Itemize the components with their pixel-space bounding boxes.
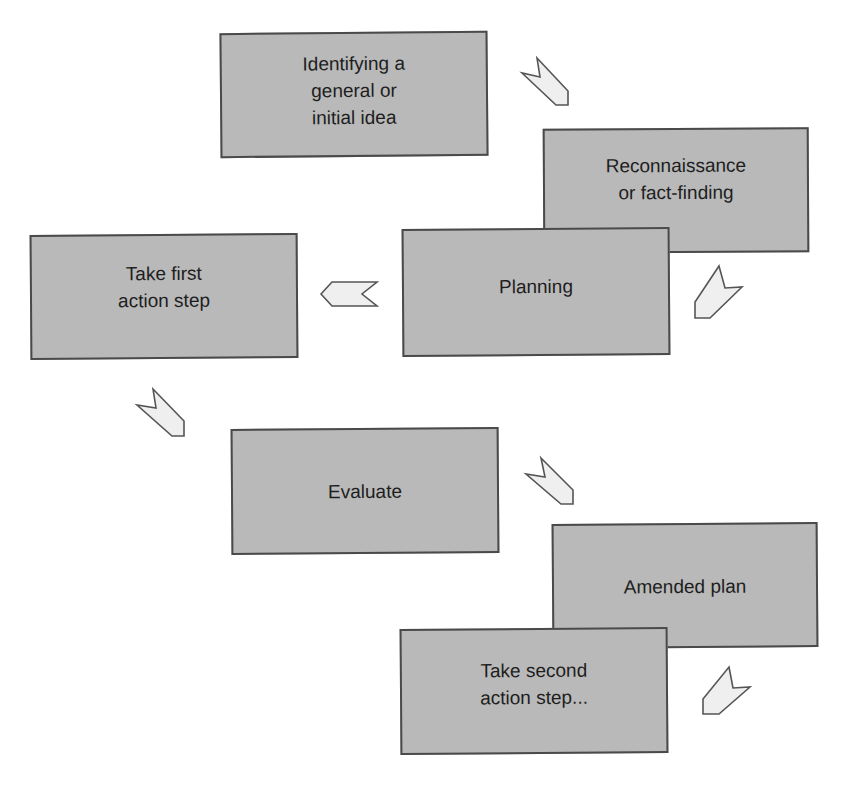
- chevron-arrow-down-right-icon: [522, 58, 568, 105]
- action-research-diagram: Identifying a general or initial idea Re…: [0, 0, 848, 791]
- step-box-evaluate: Evaluate: [231, 427, 500, 555]
- step-box-take-first-action: Take first action step: [30, 233, 299, 360]
- step-label: Reconnaissance or fact-finding: [606, 152, 747, 207]
- step-label: Take first action step: [118, 259, 210, 314]
- chevron-arrow-left-icon: [321, 282, 377, 306]
- step-label: Amended plan: [624, 573, 747, 601]
- chevron-arrow-down-right-icon: [137, 389, 184, 436]
- step-box-identifying-idea: Identifying a general or initial idea: [219, 31, 488, 158]
- chevron-arrow-down-right-icon: [526, 458, 573, 504]
- step-label: Identifying a general or initial idea: [302, 50, 405, 132]
- step-label: Evaluate: [328, 477, 402, 505]
- step-label: Planning: [499, 272, 573, 300]
- chevron-arrow-down-left-icon: [703, 667, 750, 714]
- chevron-arrow-down-left-icon: [695, 266, 742, 318]
- step-box-planning: Planning: [402, 227, 671, 357]
- step-label: Take second action step...: [480, 657, 588, 712]
- step-box-take-second-action: Take second action step...: [400, 627, 669, 755]
